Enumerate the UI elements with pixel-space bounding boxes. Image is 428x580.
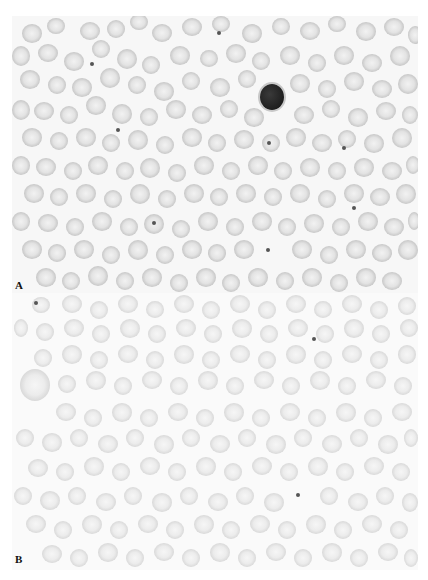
red-blood-cell <box>258 301 276 319</box>
red-blood-cell <box>146 351 164 369</box>
red-blood-cell <box>152 493 172 512</box>
red-blood-cell <box>22 240 42 259</box>
red-blood-cell <box>154 82 174 101</box>
platelet <box>34 301 38 305</box>
red-blood-cell <box>328 16 346 32</box>
red-blood-cell <box>226 218 244 236</box>
red-blood-cell <box>60 106 78 124</box>
red-blood-cell <box>38 44 58 62</box>
red-blood-cell <box>404 549 418 567</box>
red-blood-cell <box>100 68 120 88</box>
red-blood-cell <box>264 493 284 512</box>
red-blood-cell <box>34 102 54 120</box>
red-blood-cell <box>252 409 270 427</box>
red-blood-cell <box>364 457 384 475</box>
red-blood-cell <box>210 78 230 97</box>
red-blood-cell <box>72 78 92 97</box>
red-blood-cell <box>236 487 254 505</box>
red-blood-cell <box>182 429 200 447</box>
red-blood-cell <box>248 156 268 175</box>
red-blood-cell <box>12 212 30 231</box>
red-blood-cell <box>400 319 418 337</box>
red-blood-cell <box>242 24 262 43</box>
platelet <box>152 221 156 225</box>
red-blood-cell <box>376 487 394 505</box>
red-blood-cell <box>48 244 66 262</box>
red-blood-cell <box>272 18 290 35</box>
red-blood-cell <box>54 521 72 539</box>
red-blood-cell <box>338 130 356 148</box>
red-blood-cell <box>304 214 324 233</box>
red-blood-cell <box>338 377 356 395</box>
red-blood-cell <box>128 76 146 94</box>
red-blood-cell <box>50 188 68 206</box>
red-blood-cell <box>344 72 364 91</box>
red-blood-cell <box>90 301 108 319</box>
red-blood-cell <box>140 158 160 178</box>
red-blood-cell <box>102 134 120 152</box>
red-blood-cell <box>64 162 82 180</box>
red-blood-cell <box>110 521 128 539</box>
red-blood-cell <box>172 220 190 238</box>
red-blood-cell <box>316 325 334 343</box>
red-blood-cell <box>314 351 332 369</box>
red-blood-cell <box>238 429 256 447</box>
red-blood-cell <box>348 108 368 127</box>
red-blood-cell <box>288 319 308 337</box>
red-blood-cell <box>210 543 230 562</box>
red-blood-cell <box>286 295 306 313</box>
red-blood-cell <box>264 188 282 206</box>
platelet <box>266 248 270 252</box>
red-blood-cell <box>76 184 96 203</box>
red-blood-cell <box>210 188 228 206</box>
red-blood-cell <box>408 212 418 230</box>
red-blood-cell <box>154 435 174 454</box>
red-blood-cell <box>82 515 102 534</box>
panel-b-label: B <box>15 553 22 565</box>
red-blood-cell <box>92 325 110 343</box>
red-blood-cell <box>92 212 112 231</box>
red-blood-cell <box>312 134 332 152</box>
red-blood-cell <box>50 132 68 150</box>
red-blood-cell <box>234 130 254 149</box>
red-blood-cell <box>252 457 272 475</box>
red-blood-cell <box>26 515 46 533</box>
red-blood-cell <box>290 184 310 203</box>
red-blood-cell <box>382 162 402 180</box>
red-blood-cell <box>208 134 226 152</box>
red-blood-cell <box>378 543 398 561</box>
red-blood-cell <box>398 297 416 315</box>
red-blood-cell <box>392 463 410 481</box>
red-blood-cell <box>28 459 48 477</box>
red-blood-cell <box>336 463 354 481</box>
red-blood-cell <box>130 184 150 204</box>
red-blood-cell <box>168 403 188 421</box>
red-blood-cell <box>182 128 202 147</box>
red-blood-cell <box>130 16 148 30</box>
red-blood-cell <box>236 184 256 203</box>
red-blood-cell <box>378 435 398 454</box>
red-blood-cell <box>96 493 116 511</box>
red-blood-cell <box>22 128 42 147</box>
red-blood-cell <box>322 100 340 118</box>
platelet <box>352 206 356 210</box>
red-blood-cell <box>194 156 214 175</box>
red-blood-cell <box>76 128 96 147</box>
red-blood-cell <box>342 295 362 313</box>
red-blood-cell <box>102 246 120 264</box>
panel-a-micrograph <box>12 16 418 293</box>
red-blood-cell <box>16 429 34 447</box>
red-blood-cell <box>156 136 174 154</box>
red-blood-cell <box>70 549 88 567</box>
red-blood-cell <box>238 549 256 567</box>
red-blood-cell <box>392 403 412 421</box>
red-blood-cell <box>346 240 366 259</box>
platelet <box>296 493 300 497</box>
red-blood-cell <box>148 325 166 343</box>
red-blood-cell <box>398 74 418 94</box>
red-blood-cell <box>356 268 376 287</box>
red-blood-cell <box>56 403 76 421</box>
red-blood-cell <box>92 40 110 58</box>
red-blood-cell <box>370 188 390 206</box>
platelet <box>217 31 221 35</box>
